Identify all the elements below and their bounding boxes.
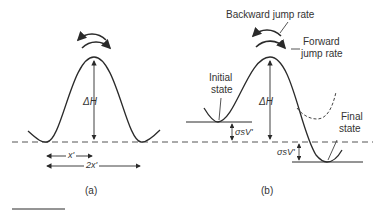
initial-state-label-line1: Initial (209, 72, 232, 83)
forward-jump-rate-label-line2: jump rate (301, 48, 343, 59)
panel-a-backward-arrow-icon (78, 34, 106, 40)
panel-a-caption: (a) (85, 185, 97, 196)
energy-barrier-diagram (0, 0, 373, 210)
final-leader-line (328, 140, 337, 160)
panel-b-dh-label: ΔH (259, 96, 273, 107)
backward-leader-line (280, 22, 288, 33)
initial-leader-line (219, 98, 221, 120)
panel-b-forward-arrow-icon (256, 41, 285, 48)
panel-b-caption: (b) (261, 185, 273, 196)
panel-a-2x-label: 2x' (84, 160, 99, 171)
forward-jump-rate-label-line1: Forward (303, 36, 340, 47)
panel-a-forward-arrow-icon (82, 42, 110, 48)
backward-jump-rate-label: Backward jump rate (226, 9, 314, 20)
alternate-final-state-dashed-curve (297, 92, 336, 119)
panel-a-dh-label: ΔH (83, 96, 97, 107)
upper-shift-label: σsV' (235, 127, 253, 138)
panel-b-backward-arrow-icon (253, 30, 281, 36)
final-state-label-line1: Final (341, 111, 363, 122)
initial-state-label-line2: state (211, 84, 233, 95)
final-state-label-line2: state (339, 123, 361, 134)
panel-a-x-label: x' (66, 150, 76, 161)
lower-shift-label: σsV' (277, 147, 295, 158)
